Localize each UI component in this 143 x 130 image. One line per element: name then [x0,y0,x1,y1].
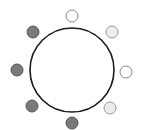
node-top-left [27,26,39,38]
circle-diagram [0,0,143,130]
node-top-right [106,26,118,38]
node-right [120,66,132,78]
node-top [66,10,78,22]
node-bottom-left [26,100,38,112]
node-bottom [66,117,78,129]
center-circle [30,28,114,112]
node-left [11,64,23,76]
node-bottom-right [104,102,116,114]
